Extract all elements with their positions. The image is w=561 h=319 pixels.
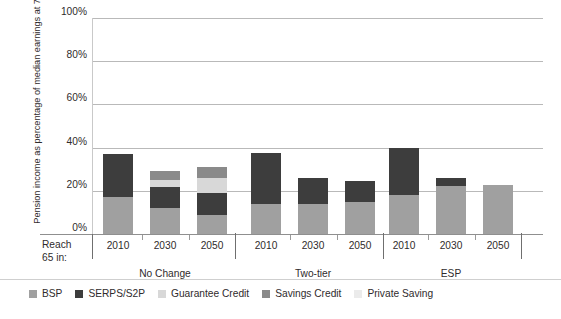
x-label-esp-2050: 2050 xyxy=(475,240,521,251)
legend-swatch-icon xyxy=(75,290,83,298)
y-tick-label-80: 80% xyxy=(33,50,87,60)
bar-two-tier-2050[interactable] xyxy=(345,181,375,234)
legend-divider xyxy=(0,279,561,280)
bar-segment-bsp xyxy=(197,215,227,234)
bar-segment-serps-s2p xyxy=(389,148,419,196)
bar-segment-serps-s2p xyxy=(298,178,328,204)
x-label-no-change-2050: 2050 xyxy=(189,240,235,251)
legend-swatch-icon xyxy=(158,290,166,298)
group-label-two-tier: Two-tier xyxy=(253,268,373,279)
legend-label: Private Saving xyxy=(367,288,433,299)
x-axis-corner-label-line1: Reach xyxy=(42,239,71,252)
y-tick-label-100: 100% xyxy=(33,7,87,17)
y-tick-label-0: 0% xyxy=(33,223,87,233)
group-separator-3 xyxy=(521,233,522,259)
legend-item-private-saving[interactable]: Private Saving xyxy=(354,288,433,299)
x-tick-minor xyxy=(290,235,291,240)
bar-segment-bsp xyxy=(103,197,133,234)
bar-segment-serps-s2p xyxy=(251,153,281,204)
x-tick-minor xyxy=(475,235,476,240)
bar-segment-bsp xyxy=(345,202,375,234)
bar-no-change-2030[interactable] xyxy=(150,171,180,234)
legend-item-guarantee-credit[interactable]: Guarantee Credit xyxy=(158,288,249,299)
x-label-two-tier-2030: 2030 xyxy=(290,240,336,251)
gridline-60 xyxy=(93,104,543,105)
x-tick-minor xyxy=(337,235,338,240)
chart-figure: Pension income as percentage of median e… xyxy=(0,0,561,319)
bar-esp-2030[interactable] xyxy=(436,178,466,234)
x-label-no-change-2010: 2010 xyxy=(95,240,141,251)
legend-swatch-icon xyxy=(262,290,270,298)
bar-esp-2010[interactable] xyxy=(389,148,419,234)
legend-item-bsp[interactable]: BSP xyxy=(29,288,62,299)
y-tick-label-20: 20% xyxy=(33,180,87,190)
group-separator-1 xyxy=(235,233,236,259)
legend-label: SERPS/S2P xyxy=(88,288,145,299)
y-tick-label-40: 40% xyxy=(33,137,87,147)
bar-segment-serps-s2p xyxy=(150,187,180,209)
x-label-esp-2030: 2030 xyxy=(428,240,474,251)
y-axis-line xyxy=(92,18,93,234)
bar-segment-serps-s2p xyxy=(345,181,375,202)
legend-item-serps-s2p[interactable]: SERPS/S2P xyxy=(75,288,145,299)
bar-segment-savings-credit xyxy=(197,167,227,178)
bar-segment-serps-s2p xyxy=(197,193,227,215)
bar-two-tier-2010[interactable] xyxy=(251,153,281,234)
bar-two-tier-2030[interactable] xyxy=(298,178,328,234)
x-tick-minor xyxy=(189,235,190,240)
group-separator-0 xyxy=(92,233,93,259)
legend-label: Savings Credit xyxy=(275,288,341,299)
x-label-no-change-2030: 2030 xyxy=(142,240,188,251)
bar-segment-bsp xyxy=(298,204,328,234)
x-label-two-tier-2050: 2050 xyxy=(337,240,383,251)
bar-segment-serps-s2p xyxy=(103,154,133,197)
chart-legend: BSPSERPS/S2PGuarantee CreditSavings Cred… xyxy=(29,288,433,299)
bar-segment-serps-s2p xyxy=(436,178,466,187)
bar-segment-bsp xyxy=(483,185,513,234)
gridline-80 xyxy=(93,61,543,62)
x-label-esp-2010: 2010 xyxy=(381,240,427,251)
group-separator-2 xyxy=(383,233,384,259)
legend-label: Guarantee Credit xyxy=(171,288,249,299)
x-tick-minor xyxy=(142,235,143,240)
y-tick-label-60: 60% xyxy=(33,93,87,103)
x-axis-corner-label: Reach 65 in: xyxy=(42,239,71,264)
legend-label: BSP xyxy=(42,288,62,299)
group-label-no-change: No Change xyxy=(105,268,225,279)
gridline-100 xyxy=(93,18,543,19)
bar-segment-bsp xyxy=(150,208,180,234)
x-label-two-tier-2010: 2010 xyxy=(243,240,289,251)
x-axis-corner-label-line2: 65 in: xyxy=(42,252,71,265)
group-label-esp: ESP xyxy=(391,268,511,279)
bar-segment-bsp xyxy=(436,186,466,234)
x-axis-line xyxy=(40,234,543,235)
bar-no-change-2050[interactable] xyxy=(197,167,227,234)
bar-no-change-2010[interactable] xyxy=(103,154,133,234)
bar-segment-savings-credit xyxy=(150,171,180,180)
legend-swatch-icon xyxy=(354,290,362,298)
gridline-40 xyxy=(93,148,543,149)
bar-segment-bsp xyxy=(251,204,281,234)
bar-segment-guarantee-credit xyxy=(197,178,227,193)
legend-item-savings-credit[interactable]: Savings Credit xyxy=(262,288,341,299)
plot-area xyxy=(93,18,543,234)
bar-segment-bsp xyxy=(389,195,419,234)
x-tick-minor xyxy=(428,235,429,240)
bar-esp-2050[interactable] xyxy=(483,185,513,234)
legend-swatch-icon xyxy=(29,290,37,298)
